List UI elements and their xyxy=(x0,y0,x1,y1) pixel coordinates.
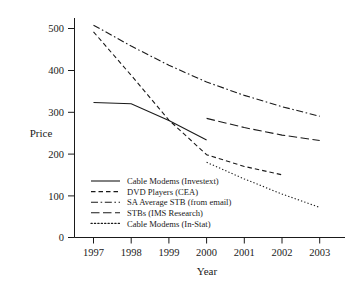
x-tick-label-2001: 2001 xyxy=(234,247,255,258)
series-line-3 xyxy=(207,118,320,140)
x-tick-label-2000: 2000 xyxy=(196,247,217,258)
y-tick-label-100: 100 xyxy=(48,191,64,202)
legend-label-1: DVD Players (CEA) xyxy=(127,187,198,197)
y-tick-label-500: 500 xyxy=(48,23,64,34)
legend-label-4: Cable Modems (In-Stat) xyxy=(127,219,211,229)
chart-canvas: 500 400 300 200 100 0 1997 1998 1999 200… xyxy=(0,0,353,288)
x-tick-label-1999: 1999 xyxy=(158,247,179,258)
y-axis-title: Price xyxy=(30,127,53,139)
legend-label-3: STBs (IMS Research) xyxy=(127,208,203,218)
series-line-0 xyxy=(94,102,207,140)
legend-label-2: SA Average STB (from email) xyxy=(127,197,232,207)
y-tick-label-400: 400 xyxy=(48,65,64,76)
x-axis-ticks: 1997 1998 1999 2000 2001 2002 2003 xyxy=(83,238,330,259)
x-tick-label-1998: 1998 xyxy=(121,247,142,258)
chart-legend: Cable Modems (Investext)DVD Players (CEA… xyxy=(91,176,232,228)
x-tick-label-2002: 2002 xyxy=(272,247,293,258)
series-line-2 xyxy=(94,25,320,116)
legend-label-0: Cable Modems (Investext) xyxy=(127,176,219,186)
y-tick-label-300: 300 xyxy=(48,107,64,118)
x-axis-title: Year xyxy=(197,265,218,277)
y-tick-label-0: 0 xyxy=(59,232,64,243)
price-trend-line-chart: 500 400 300 200 100 0 1997 1998 1999 200… xyxy=(0,0,353,288)
x-tick-label-2003: 2003 xyxy=(309,247,330,258)
x-tick-label-1997: 1997 xyxy=(83,247,104,258)
y-tick-label-200: 200 xyxy=(48,149,64,160)
